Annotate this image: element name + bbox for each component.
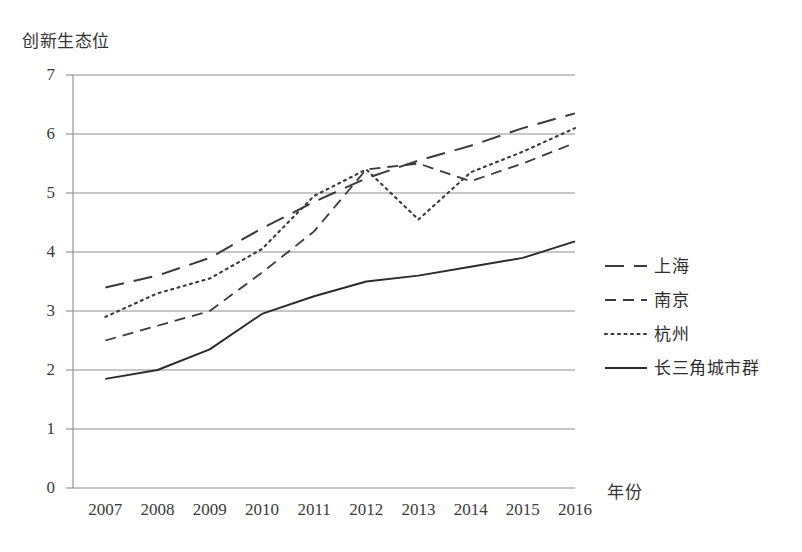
x-tick-label: 2011 [297,500,330,520]
y-tick-label: 6 [29,124,55,144]
x-tick-label: 2013 [401,500,435,520]
legend-swatch-dotted-icon [604,326,648,338]
x-tick-label: 2010 [245,500,279,520]
x-tick-label: 2009 [193,500,227,520]
x-tick-label: 2015 [506,500,540,520]
y-tick-label: 0 [29,478,55,498]
x-tick-label: 2012 [349,500,383,520]
chart-legend: 上海南京杭州长三角城市群 [604,247,794,383]
legend-swatch-long-dash-icon [604,258,648,270]
x-tick-label: 2008 [141,500,175,520]
legend-label: 上海 [654,252,689,277]
series-lines [105,113,575,379]
y-tick-label: 7 [29,65,55,85]
legend-swatch-dashed-icon [604,292,648,304]
legend-item[interactable]: 上海 [604,247,794,281]
series-line-3 [105,241,575,378]
y-tick-label: 4 [29,242,55,262]
y-tick-label: 2 [29,360,55,380]
legend-item[interactable]: 杭州 [604,315,794,349]
legend-swatch-solid-icon [604,360,648,372]
legend-label: 长三角城市群 [654,354,759,379]
legend-label: 南京 [654,286,689,311]
x-tick-label: 2007 [88,500,122,520]
y-tick-label: 5 [29,183,55,203]
legend-item[interactable]: 南京 [604,281,794,315]
x-tick-label: 2016 [558,500,592,520]
y-tick-label: 3 [29,301,55,321]
line-chart: 创新生态位 年份 01234567 2007200820092010201120… [0,0,802,552]
y-tick-label: 1 [29,419,55,439]
legend-label: 杭州 [654,320,689,345]
axis-tickmarks [66,75,73,488]
legend-item[interactable]: 长三角城市群 [604,349,794,383]
x-tick-label: 2014 [454,500,488,520]
